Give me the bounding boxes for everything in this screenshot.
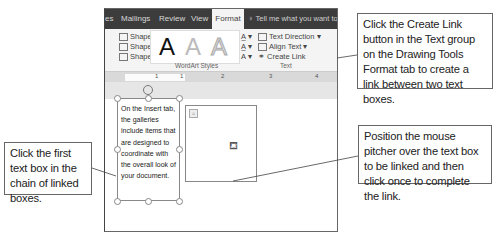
shape-effects-icon xyxy=(119,53,128,61)
tab-format[interactable]: Format xyxy=(212,9,244,29)
wordart-styles-gallery[interactable]: A A A xyxy=(150,30,240,64)
chain-link-icon: ⚭ xyxy=(258,52,267,61)
text-group-label: Text xyxy=(280,62,292,69)
ribbon-tab-bar: es Mailings Review View Format ♀ Tell me… xyxy=(105,9,337,29)
tab-view[interactable]: View xyxy=(191,9,208,29)
text-outline-button[interactable]: A̲ ▾ xyxy=(241,42,252,52)
align-text-button[interactable]: Align Text ▾ xyxy=(258,42,307,52)
lightbulb-icon: ♀ xyxy=(248,14,256,23)
text-fill-button[interactable]: A̲ ▾ xyxy=(241,32,252,42)
text-line: your document. xyxy=(121,170,176,181)
layout-options-icon[interactable]: ⌂ xyxy=(189,109,198,118)
paint-bucket-icon xyxy=(119,33,128,41)
resize-handle[interactable] xyxy=(176,95,183,102)
tab-mailings[interactable]: Mailings xyxy=(121,9,150,29)
text-direction-button[interactable]: Text Direction ▾ xyxy=(258,32,321,42)
wordart-style-gray[interactable]: A xyxy=(185,33,201,61)
text-line: are designed to xyxy=(121,137,176,148)
ruler-number: 3 xyxy=(269,73,272,79)
resize-handle[interactable] xyxy=(114,146,121,153)
resize-handle[interactable] xyxy=(114,95,121,102)
ruler-number: 2 xyxy=(221,73,224,79)
text-effects-icon: A ▾ xyxy=(241,52,252,61)
ruler-number: 1 xyxy=(180,73,183,79)
text-box-1[interactable]: On the Insert tab, the galleries include… xyxy=(117,98,180,201)
text-effects-button[interactable]: A ▾ xyxy=(241,52,252,62)
text-fill-icon: A̲ ▾ xyxy=(241,32,252,41)
create-link-button[interactable]: ⚭ Create Link xyxy=(258,52,305,62)
ribbon-panel: Shape Fill ▾ Shape Outline ▾ Shape Effec… xyxy=(105,29,337,71)
resize-handle[interactable] xyxy=(145,198,152,205)
text-outline-icon: A̲ ▾ xyxy=(241,42,252,51)
align-text-icon xyxy=(258,43,267,51)
pencil-icon xyxy=(119,43,128,51)
text-line: coordinate with xyxy=(121,148,176,159)
pitcher-cursor-icon: ⛾ xyxy=(229,139,238,154)
resize-handle[interactable] xyxy=(176,146,183,153)
wordart-group-label: WordArt Styles xyxy=(175,62,218,69)
callout-first-box: Click the first text box in the chain of… xyxy=(4,142,92,195)
wordart-style-black[interactable]: A xyxy=(159,33,175,61)
wordart-style-outline[interactable]: A xyxy=(211,33,227,61)
text-line: the overall look of xyxy=(121,159,176,170)
rotate-handle-icon[interactable] xyxy=(143,85,153,95)
text-box-2[interactable]: ⌂ xyxy=(185,105,257,182)
resize-handle[interactable] xyxy=(176,198,183,205)
ruler-number: 4 xyxy=(315,73,318,79)
resize-handle[interactable] xyxy=(114,198,121,205)
resize-handle[interactable] xyxy=(145,95,152,102)
text-line: include items that xyxy=(121,125,176,136)
text-line: On the Insert tab, xyxy=(121,103,176,114)
tab-partial[interactable]: es xyxy=(105,9,115,29)
text-direction-icon xyxy=(258,33,267,41)
tell-me-search[interactable]: ♀ Tell me what you want to do xyxy=(248,9,338,29)
word-window-screenshot: es Mailings Review View Format ♀ Tell me… xyxy=(104,8,338,232)
text-line: the galleries xyxy=(121,114,176,125)
tab-review[interactable]: Review xyxy=(159,9,185,29)
callout-position-mouse: Position the mouse pitcher over the text… xyxy=(358,125,492,184)
callout-create-link: Click the Create Link button in the Text… xyxy=(357,13,493,89)
ruler-number: 1 xyxy=(155,73,158,79)
document-margin-area xyxy=(105,82,337,99)
